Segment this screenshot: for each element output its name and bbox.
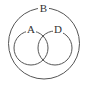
set-d-circle: [38, 31, 72, 65]
set-b-label: B: [40, 2, 47, 14]
set-b-circle: [9, 8, 80, 79]
set-a-label: A: [27, 23, 35, 35]
venn-diagram: B A D: [0, 0, 86, 85]
set-d-label: D: [54, 23, 62, 35]
